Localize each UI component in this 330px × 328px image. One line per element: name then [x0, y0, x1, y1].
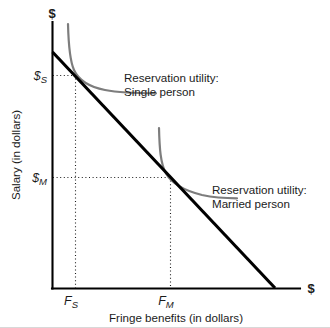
- x-axis-dollar-symbol: $: [307, 281, 315, 296]
- y-axis-title: Salary (in dollars): [9, 110, 22, 200]
- annotation-single-line1: Reservation utility:: [124, 71, 219, 84]
- y-tick-label-salary-single: $S: [33, 69, 48, 85]
- x-tick-label-fringe-single: FS: [64, 294, 79, 310]
- annotation-married-line1: Reservation utility:: [212, 183, 307, 196]
- indifference-curve-figure: $ $ $S $M FS FM Reservation utility: Sin…: [0, 0, 330, 328]
- y-tick-label-salary-married: $M: [31, 171, 47, 187]
- x-axis-title: Fringe benefits (in dollars): [109, 311, 243, 324]
- annotation-reservation-utility-single: Reservation utility: Single person: [124, 71, 219, 98]
- axes-group: [52, 22, 300, 289]
- y-axis-dollar-symbol: $: [48, 6, 56, 21]
- annotation-single-line2: Single person: [124, 85, 195, 98]
- x-tick-label-fringe-married: FM: [158, 294, 174, 310]
- guide-lines-group: [53, 75, 171, 288]
- annotation-reservation-utility-married: Reservation utility: Married person: [212, 183, 307, 210]
- annotation-married-line2: Married person: [212, 197, 290, 210]
